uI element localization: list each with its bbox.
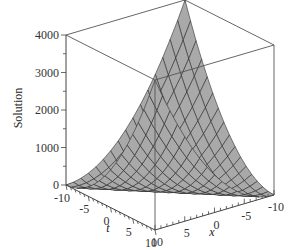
z-tick-label: 4000 [35, 28, 59, 42]
x-axis-title: x [208, 225, 215, 239]
x-tick-label: -5 [241, 209, 251, 223]
t-tick-label: -5 [79, 202, 89, 216]
z-tick-label: 1000 [35, 141, 59, 155]
x-tick-label: 10 [151, 235, 163, 249]
t-axis-title: t [106, 221, 110, 235]
box-edge [185, 0, 274, 45]
z-tick-label: 0 [53, 178, 59, 192]
box-edge [66, 0, 185, 35]
z-tick-label: 3000 [35, 66, 59, 80]
box-edge [66, 35, 155, 80]
t-tick-label: -10 [54, 191, 70, 205]
t-tick-label: 5 [126, 225, 132, 239]
z-tick-label: 2000 [35, 103, 59, 117]
z-axis-title: Solution [11, 88, 25, 129]
x-tick-label: 5 [184, 226, 190, 240]
surface-plot: 01000200030004000-10-505101050-5-10 Solu… [0, 0, 295, 250]
x-tick-label: -10 [268, 200, 284, 214]
